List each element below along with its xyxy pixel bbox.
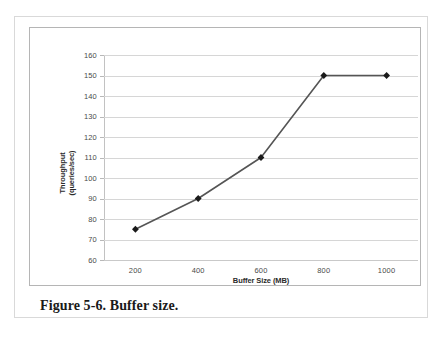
y-tick-label-130: 130 — [30, 112, 97, 121]
figure-caption: Figure 5-6. Buffer size. — [40, 298, 178, 314]
x-axis-title: Buffer Size (MB) — [104, 276, 418, 285]
plot-area — [104, 55, 418, 260]
x-tick-label-600: 600 — [241, 266, 281, 275]
x-tick-label-1000: 1000 — [367, 266, 407, 275]
series-markers — [132, 72, 390, 233]
series-line-chart — [104, 55, 418, 260]
x-tick-label-800: 800 — [304, 266, 344, 275]
series-line — [135, 76, 386, 230]
figure-outer-border: Throughput (queries/sec) 607080901001101… — [14, 16, 428, 318]
x-tick-label-200: 200 — [115, 266, 155, 275]
y-tick-label-150: 150 — [30, 71, 97, 80]
chart-frame: Throughput (queries/sec) 607080901001101… — [29, 27, 421, 286]
y-tick-label-60: 60 — [30, 256, 97, 265]
y-tick-label-110: 110 — [30, 153, 97, 162]
figure-page: Throughput (queries/sec) 607080901001101… — [0, 0, 446, 345]
y-tick-label-140: 140 — [30, 92, 97, 101]
y-tick-label-120: 120 — [30, 133, 97, 142]
data-point-200 — [132, 226, 139, 233]
y-tick-label-160: 160 — [30, 51, 97, 60]
x-tick-label-400: 400 — [178, 266, 218, 275]
data-point-1000 — [383, 72, 390, 79]
y-tick-label-80: 80 — [30, 215, 97, 224]
y-tick-label-90: 90 — [30, 194, 97, 203]
y-tick-label-100: 100 — [30, 174, 97, 183]
gridline-y-60 — [104, 260, 418, 261]
y-tick-label-70: 70 — [30, 235, 97, 244]
